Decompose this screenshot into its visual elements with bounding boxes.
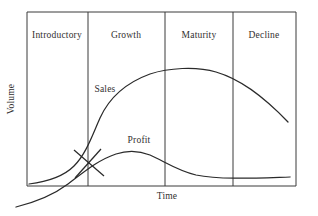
y-axis-label: Volume	[6, 84, 16, 115]
diagram-canvas: Introductory Growth Maturity Decline Sal…	[0, 0, 318, 216]
product-life-cycle-diagram: Introductory Growth Maturity Decline Sal…	[0, 0, 318, 216]
stage-label-growth: Growth	[111, 30, 141, 40]
x-axis-label: Time	[157, 191, 178, 201]
sales-curve-label: Sales	[94, 84, 115, 94]
profit-curve-label: Profit	[128, 135, 151, 145]
stage-label-maturity: Maturity	[182, 30, 217, 40]
stage-label-introductory: Introductory	[32, 30, 82, 40]
stage-label-decline: Decline	[249, 30, 280, 40]
